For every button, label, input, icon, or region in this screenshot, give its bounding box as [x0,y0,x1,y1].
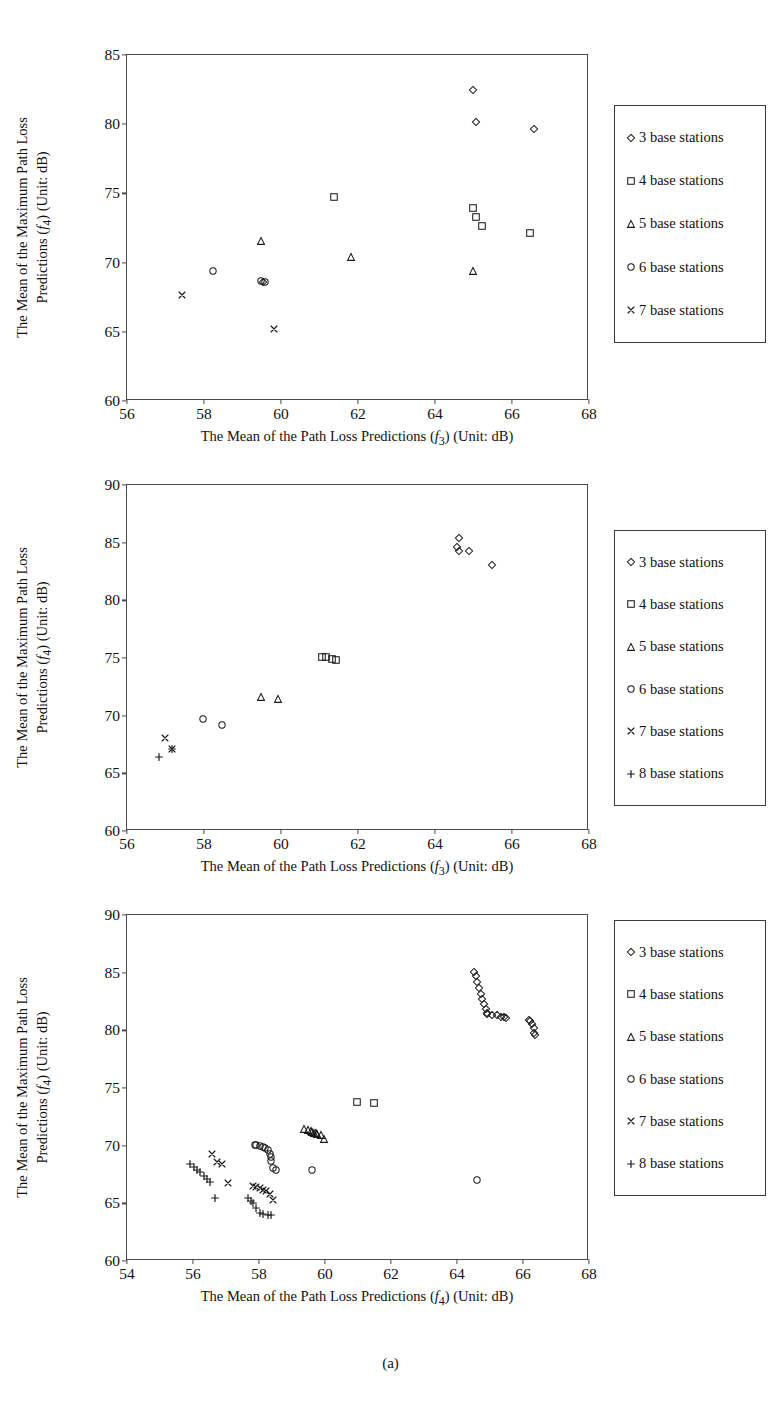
x-tick-mark [203,829,204,834]
circle-marker-icon [624,1075,637,1083]
legend-item-label: 7 base stations [639,1113,724,1130]
x-axis-title: The Mean of the Path Loss Predictions (f… [201,428,514,449]
x-tick-mark [456,1259,457,1264]
x-tick-mark [192,1259,193,1264]
legend-item[interactable]: 8 base stations [624,765,759,782]
y-tick-mark [122,193,127,194]
data-point [531,1031,539,1039]
legend-item[interactable]: 7 base stations [624,723,759,740]
data-point [209,267,217,275]
plot-area: 60657075808556586062646668 [126,54,588,400]
y-tick-label: 85 [105,534,121,552]
legend-item-label: 3 base stations [639,129,724,146]
y-tick-mark [122,1087,127,1088]
y-tick-mark [122,972,127,973]
y-tick-label: 75 [105,649,121,667]
x-tick-label: 60 [273,405,289,423]
y-tick-mark [122,124,127,125]
y-tick-label: 80 [105,1021,121,1039]
legend-item-label: 7 base stations [639,302,724,319]
y-tick-label: 75 [105,1079,121,1097]
legend-item[interactable]: 3 base stations [624,554,759,571]
data-point [469,86,477,94]
data-point [155,753,163,761]
triangle-marker-icon [624,220,637,228]
legend-item-label: 4 base stations [639,986,724,1003]
legend-item[interactable]: 7 base stations [624,302,759,319]
data-point [472,213,480,221]
x-tick-mark [126,829,127,834]
diamond-marker-icon [624,948,637,956]
x-tick-mark [588,399,589,404]
y-tick-label: 65 [105,1194,121,1212]
x-tick-label: 62 [350,405,366,423]
cross-marker-icon [624,1117,637,1125]
y-axis-title: The Mean of the Maximum Path Loss Predic… [6,484,62,830]
legend-item[interactable]: 6 base stations [624,681,759,698]
y-tick-mark [122,542,127,543]
data-point [257,693,265,701]
x-tick-mark [126,399,127,404]
x-tick-label: 66 [504,405,520,423]
data-point [473,1176,481,1184]
x-tick-label: 62 [350,835,366,853]
legend-item[interactable]: 5 base stations [624,215,759,232]
chart-legend: 3 base stations 4 base stations 5 base s… [614,105,766,343]
data-point [206,1178,214,1186]
legend-item-label: 6 base stations [639,259,724,276]
legend-item[interactable]: 3 base stations [624,944,759,961]
x-tick-mark [258,1259,259,1264]
y-tick-mark [122,600,127,601]
chart-panel-1: The Mean of the Maximum Path Loss Predic… [0,10,781,460]
y-tick-label: 60 [105,822,121,840]
y-tick-mark [122,331,127,332]
data-point [208,1150,216,1158]
y-tick-label: 85 [105,46,121,64]
data-point [469,267,477,275]
legend-item[interactable]: 8 base stations [624,1155,759,1172]
cross-marker-icon [624,727,637,735]
legend-item-label: 5 base stations [639,638,724,655]
y-tick-label: 90 [105,476,121,494]
legend-item[interactable]: 4 base stations [624,596,759,613]
legend-item-label: 8 base stations [639,1155,724,1172]
chart-legend: 3 base stations 4 base stations 5 base s… [614,920,766,1196]
y-tick-mark [122,657,127,658]
x-tick-mark [434,829,435,834]
data-point [320,1135,328,1143]
legend-item[interactable]: 4 base stations [624,986,759,1003]
data-point [488,561,496,569]
x-axis-title: The Mean of the Path Loss Predictions (f… [201,858,514,879]
x-tick-mark [522,1259,523,1264]
data-point [465,547,473,555]
data-point [330,193,338,201]
y-tick-mark [122,262,127,263]
figure-scatter-panels: The Mean of the Maximum Path Loss Predic… [0,0,781,1411]
x-tick-label: 66 [515,1265,531,1283]
data-point [161,734,169,742]
legend-item[interactable]: 3 base stations [624,129,759,146]
data-point [469,204,477,212]
x-tick-label: 56 [119,835,135,853]
y-tick-mark [122,1145,127,1146]
x-tick-mark [280,399,281,404]
plus-marker-icon [624,770,637,778]
x-tick-mark [511,829,512,834]
plot-area: 6065707580859056586062646668 [126,484,588,830]
data-point [257,237,265,245]
y-tick-label: 85 [105,964,121,982]
legend-item[interactable]: 6 base stations [624,1071,759,1088]
legend-item[interactable]: 6 base stations [624,259,759,276]
y-tick-mark [122,1030,127,1031]
y-tick-mark [122,715,127,716]
x-tick-label: 60 [273,835,289,853]
legend-item[interactable]: 5 base stations [624,638,759,655]
y-tick-mark [122,773,127,774]
data-point [502,1014,510,1022]
circle-marker-icon [624,685,637,693]
square-marker-icon [624,600,637,608]
data-point [218,1160,226,1168]
legend-item[interactable]: 5 base stations [624,1028,759,1045]
legend-item[interactable]: 4 base stations [624,172,759,189]
legend-item[interactable]: 7 base stations [624,1113,759,1130]
